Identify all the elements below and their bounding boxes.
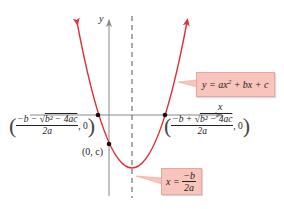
- y-intercept-label: (0, c): [82, 146, 103, 157]
- right-root-radicand: b² − 4ac: [200, 114, 232, 124]
- right-root-denominator: 2a: [171, 126, 233, 137]
- left-root-label: (−b − √b² − 4ac2a, 0): [9, 114, 95, 137]
- curve-eq-lhs: y = ax: [202, 79, 228, 90]
- curve-equation-label: y = ax2 + bx + c: [196, 72, 275, 97]
- vertex-eq-numerator: −b: [182, 170, 196, 182]
- vertex-equation-label: x = −b2a: [161, 168, 202, 195]
- vertex-eq-denominator: 2a: [182, 182, 196, 193]
- y-intercept-point: [107, 142, 112, 147]
- left-root-point: [96, 113, 101, 118]
- curve-label-pointer: [178, 80, 197, 87]
- left-root-denominator: 2a: [16, 126, 78, 137]
- right-root-num-prefix: −b +: [172, 114, 194, 124]
- x-axis-label: x: [218, 101, 222, 112]
- vertex-eq-lhs: x =: [166, 176, 182, 187]
- left-root-num-prefix: −b −: [17, 114, 39, 124]
- vertex-label-pointer: [136, 176, 162, 184]
- left-root-radicand: b² − 4ac: [45, 114, 77, 124]
- right-root-label: (−b + √b² − 4ac2a, 0): [164, 114, 250, 137]
- parabola-graph: [0, 0, 284, 209]
- curve-eq-rhs: + bx + c: [231, 79, 268, 90]
- y-axis-label: y: [99, 13, 103, 24]
